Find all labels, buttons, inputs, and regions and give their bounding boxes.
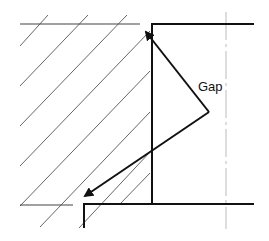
hatched-region — [20, 15, 150, 228]
gap-label: Gap — [198, 79, 223, 94]
arrow-down-left — [85, 112, 209, 196]
arrow-up-left — [146, 32, 209, 112]
gap-diagram — [0, 0, 269, 241]
